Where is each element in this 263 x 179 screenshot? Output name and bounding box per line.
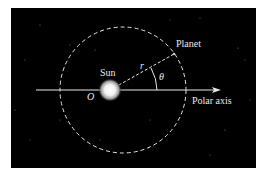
sun-label: Sun (100, 67, 116, 78)
polar-coordinates-diagram: Sun Planet O r θ Polar axis (0, 0, 263, 179)
planet-icon (173, 53, 176, 56)
sun-icon (98, 78, 122, 102)
radius-label: r (140, 60, 144, 71)
angle-label: θ (159, 71, 164, 82)
space-background (11, 8, 256, 168)
planet-label: Planet (176, 38, 201, 49)
polar-axis-label: Polar axis (192, 95, 232, 106)
origin-label: O (87, 91, 94, 102)
